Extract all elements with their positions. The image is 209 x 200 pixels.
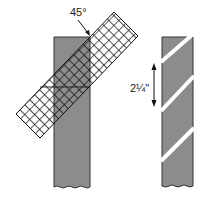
dimension-arrow-icon (152, 63, 157, 107)
width-label: 2¼" (130, 82, 149, 94)
bias-cut-diagram: 45° 2¼" (0, 0, 209, 200)
angle-label: 45° (70, 6, 87, 18)
right-fabric-strip (161, 35, 194, 187)
angle-arrow-icon (78, 20, 90, 36)
